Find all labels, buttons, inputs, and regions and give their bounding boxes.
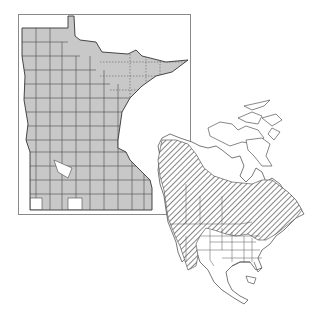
map-canvas (0, 0, 326, 319)
